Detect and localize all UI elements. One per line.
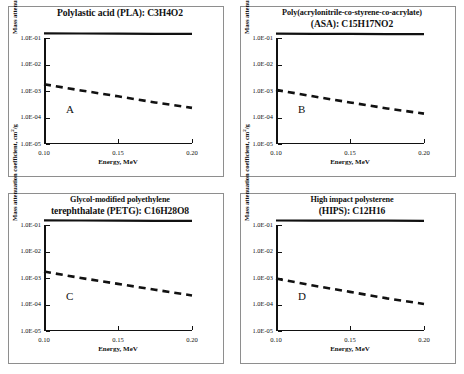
panel-letter: D — [298, 290, 306, 302]
y-axis-tick-label: 1.0E-05 — [21, 140, 41, 147]
y-axis-label: Mass attenuation coefficient, cm2/g — [10, 125, 18, 221]
plot-area: 1.0E-011.0E-021.0E-031.0E-041.0E-050.100… — [44, 38, 192, 144]
x-axis-tick-label: 0.20 — [186, 149, 198, 156]
panel-title-line: Glycol-modified polyethylene — [14, 195, 226, 206]
x-axis-tick — [424, 326, 425, 330]
curve-solid — [44, 220, 192, 221]
panel-letter: B — [298, 103, 305, 115]
x-axis-tick-label: 0.15 — [112, 149, 124, 156]
y-axis-label: Mass attenuation coefficient, cm2/g — [242, 125, 250, 221]
y-axis-tick-label: 1.0E-05 — [253, 140, 273, 147]
y-axis-tick-label: 1.0E-05 — [253, 327, 273, 334]
y-axis-tick-label: 1.0E-04 — [253, 113, 273, 120]
plot-area: 1.0E-011.0E-021.0E-031.0E-041.0E-050.100… — [44, 225, 192, 331]
plot-area: 1.0E-011.0E-021.0E-031.0E-041.0E-050.100… — [276, 38, 424, 144]
chart-panel-b: Poly(acrylonitrile-co-styrene-co-acrylat… — [232, 0, 464, 187]
y-axis-tick-label: 1.0E-04 — [21, 113, 41, 120]
panel-title: Polylastic acid (PLA): C3H4O2 — [14, 8, 226, 19]
y-axis-tick-label: 1.0E-05 — [21, 327, 41, 334]
y-axis-label-text: Mass attenuation coefficient, cm — [243, 132, 250, 221]
y-axis-tick-label: 1.0E-02 — [253, 60, 273, 67]
x-axis-tick-label: 0.20 — [186, 336, 198, 343]
y-axis-tick-label: 1.0E-02 — [253, 247, 273, 254]
x-axis-label: Energy, MeV — [276, 345, 424, 353]
y-axis-tick-label: 1.0E-02 — [21, 60, 41, 67]
panel-letter: A — [66, 103, 74, 115]
y-axis-label-exponent: 2 — [242, 129, 247, 131]
x-axis-label: Energy, MeV — [44, 345, 192, 353]
y-axis-tick-label: 1.0E-01 — [253, 221, 273, 228]
y-axis-tick-label: 1.0E-02 — [21, 247, 41, 254]
panel-title: Poly(acrylonitrile-co-styrene-co-acrylat… — [246, 8, 458, 29]
x-axis-tick-label: 0.15 — [112, 336, 124, 343]
panel-title: Glycol-modified polyethyleneterephthalat… — [14, 195, 226, 216]
chart-panel-a: Polylastic acid (PLA): C3H4O2Mass attenu… — [0, 0, 232, 187]
y-axis-tick-label: 1.0E-03 — [21, 87, 41, 94]
panel-letter: C — [66, 290, 73, 302]
y-axis-tick-label: 1.0E-01 — [21, 34, 41, 41]
panel-title: High impact polysterene(HIPS): C12H16 — [246, 195, 458, 216]
y-axis-tick — [46, 331, 50, 332]
y-axis-label-unit: /g — [243, 124, 250, 129]
x-axis-tick-label: 0.10 — [38, 149, 50, 156]
curve-solid — [44, 33, 192, 34]
y-axis-label: Mass attenuation coefficient, cm2/g — [242, 0, 250, 34]
x-axis-tick-label: 0.15 — [344, 336, 356, 343]
y-axis-tick — [46, 144, 50, 145]
panel-title-line: Poly(acrylonitrile-co-styrene-co-acrylat… — [246, 8, 458, 19]
chart-panel-d: High impact polysterene(HIPS): C12H16Mas… — [232, 187, 464, 374]
panel-title-line: terephthalate (PETG): C16H28O8 — [14, 206, 226, 217]
x-axis-tick-label: 0.10 — [38, 336, 50, 343]
y-axis-tick-label: 1.0E-01 — [253, 34, 273, 41]
y-axis-tick-label: 1.0E-04 — [253, 300, 273, 307]
x-axis-tick — [424, 139, 425, 143]
panel-title-line: (ASA): C15H17NO2 — [246, 19, 458, 30]
y-axis-label-text: Mass attenuation coefficient, cm — [11, 132, 18, 221]
x-axis-tick-label: 0.15 — [344, 149, 356, 156]
x-axis-tick — [192, 139, 193, 143]
curves-layer — [44, 38, 192, 144]
x-axis-tick-label: 0.20 — [418, 336, 430, 343]
y-axis-tick — [278, 144, 282, 145]
y-axis-tick — [278, 331, 282, 332]
x-axis-label: Energy, MeV — [276, 158, 424, 166]
x-axis-label: Energy, MeV — [44, 158, 192, 166]
y-axis-tick-label: 1.0E-04 — [21, 300, 41, 307]
y-axis-label-unit: /g — [11, 124, 18, 129]
plot-area: 1.0E-011.0E-021.0E-031.0E-041.0E-050.100… — [276, 225, 424, 331]
y-axis-label-text: Mass attenuation coefficient, cm — [11, 0, 18, 34]
x-axis-tick-label: 0.20 — [418, 149, 430, 156]
panel-title-line: High impact polysterene — [246, 195, 458, 206]
x-axis-tick-label: 0.10 — [270, 149, 282, 156]
curves-layer — [44, 225, 192, 331]
panel-title-line: Polylastic acid (PLA): C3H4O2 — [14, 8, 226, 19]
y-axis-tick-label: 1.0E-03 — [253, 274, 273, 281]
panel-title-line: (HIPS): C12H16 — [246, 206, 458, 217]
y-axis-tick-label: 1.0E-01 — [21, 221, 41, 228]
figure-grid: Polylastic acid (PLA): C3H4O2Mass attenu… — [0, 0, 464, 374]
x-axis-tick — [192, 326, 193, 330]
y-axis-tick-label: 1.0E-03 — [21, 274, 41, 281]
x-axis-tick-label: 0.10 — [270, 336, 282, 343]
chart-panel-c: Glycol-modified polyethyleneterephthalat… — [0, 187, 232, 374]
curves-layer — [276, 225, 424, 331]
y-axis-label: Mass attenuation coefficient, cm2/g — [10, 0, 18, 34]
y-axis-tick-label: 1.0E-03 — [253, 87, 273, 94]
y-axis-label-text: Mass attenuation coefficient, cm — [243, 0, 250, 34]
y-axis-label-exponent: 2 — [10, 129, 15, 131]
curves-layer — [276, 38, 424, 144]
